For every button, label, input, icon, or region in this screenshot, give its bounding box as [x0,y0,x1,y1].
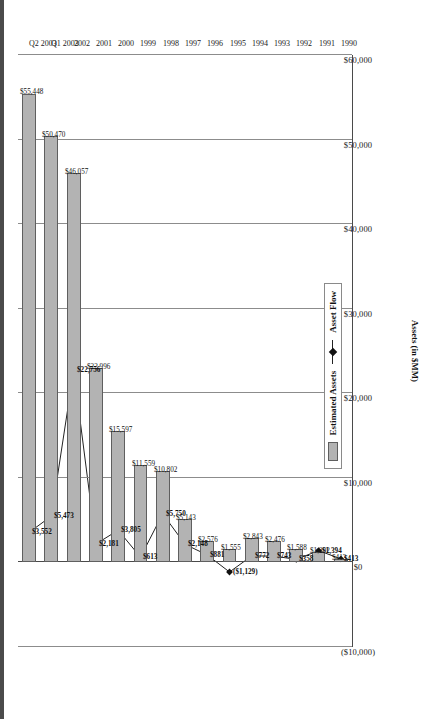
category-label-1996: 1996 [207,39,223,48]
flow-value-label: $5,473 [54,512,74,520]
bar [134,465,148,563]
category-label-2001: 2001 [96,39,112,48]
rotated-chart-wrapper: $413$1,202$1,588$2,476$2,843$1,555$2,576… [0,0,429,719]
value-axis-tick-label: $30,000 [344,309,372,319]
value-axis-tick-label: $60,000 [344,55,372,65]
value-axis-tick-label: $0 [354,562,363,572]
gridline [18,54,352,55]
bar [44,136,58,563]
legend-line-marker-icon [329,340,337,364]
bar-value-label: $10,802 [154,466,177,474]
bar [22,94,36,563]
bar-value-label: $15,597 [109,426,132,434]
category-label-1997: 1997 [185,39,201,48]
combo-chart: $413$1,202$1,588$2,476$2,843$1,555$2,576… [0,0,429,719]
bar-value-label: $2,843 [243,533,263,541]
category-label-1991: 1991 [319,39,335,48]
category-label-1999: 1999 [140,39,156,48]
value-axis-tick-label: ($10,000) [341,647,375,657]
flow-value-label: $881 [210,551,224,559]
category-label-1990: 1990 [341,39,357,48]
value-axis-tick-label: $50,000 [344,140,372,150]
bar-value-label: $2,476 [265,537,285,545]
category-label-1998: 1998 [163,39,179,48]
flow-value-label: $772 [255,552,269,560]
category-label-1992: 1992 [296,39,312,48]
gridline [18,139,352,140]
flow-value-label: $1,394 [322,547,342,555]
flow-value-label: $743 [277,552,291,560]
bar-value-label: $11,559 [132,460,155,468]
flow-value-label: $5,750 [166,510,186,518]
legend-label-estimated-assets: Estimated Assets [328,371,338,436]
flow-value-label: $2,181 [99,540,119,548]
category-label-1993: 1993 [274,39,290,48]
flow-value-label: $613 [143,553,157,561]
value-axis-title: Assets (in $MM) [410,320,420,382]
bar-value-label: $46,057 [65,168,88,176]
flow-value-label: ($1,129) [233,568,258,576]
legend-bar-swatch-icon [328,442,338,461]
value-axis-tick-label: $10,000 [344,478,372,488]
chart-legend: Estimated Assets Asset Flow [324,283,342,470]
legend-label-asset-flow: Asset Flow [328,291,338,333]
bar-value-label: $1,588 [287,544,307,552]
flow-value-label: $3,805 [121,526,141,534]
category-label-2000: 2000 [118,39,134,48]
bar-value-label: $50,470 [42,131,65,139]
category-label-1995: 1995 [230,39,246,48]
flow-value-label: $22,756 [77,366,100,374]
category-label-1994: 1994 [252,39,268,48]
flow-value-label: $3,552 [32,528,52,536]
category-label-q2-2003: Q2 2003 [29,39,57,48]
bar-value-label: $55,448 [20,89,43,97]
flow-value-label: $358 [299,555,313,563]
flow-value-label: $2,148 [188,540,208,548]
chart-page: $413$1,202$1,588$2,476$2,843$1,555$2,576… [0,0,429,719]
bar [89,368,103,562]
value-axis-tick-label: $40,000 [344,224,372,234]
value-axis-tick-label: $20,000 [344,393,372,403]
gridline [18,646,352,647]
